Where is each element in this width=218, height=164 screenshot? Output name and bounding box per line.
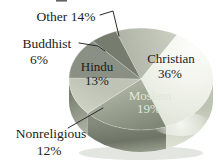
label-nonreligious-value: 12% xyxy=(37,143,62,158)
label-hindu-value: 13% xyxy=(85,73,109,88)
label-buddhist: Buddhist xyxy=(23,36,72,51)
label-moslem-value: 19% xyxy=(137,101,161,116)
label-other: Other 14% xyxy=(37,9,96,24)
label-buddhist-value: 6% xyxy=(30,52,48,67)
label-christian-value: 36% xyxy=(158,66,182,81)
label-hindu: Hindu xyxy=(81,59,114,74)
label-christian: Christian xyxy=(147,51,195,66)
cropped-text-artifact xyxy=(56,0,67,2)
pie-chart-figure: Other 14% Buddhist 6% Nonreligious 12% H… xyxy=(0,0,218,164)
pie-chart-svg: Other 14% Buddhist 6% Nonreligious 12% H… xyxy=(0,0,218,164)
label-nonreligious: Nonreligious xyxy=(16,126,87,141)
